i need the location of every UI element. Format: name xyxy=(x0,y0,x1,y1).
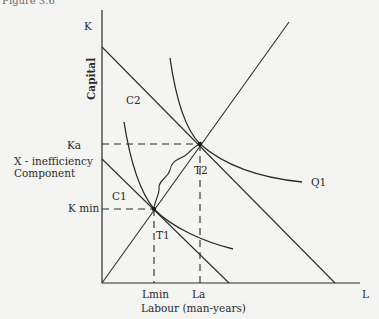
tick-label-lmin: Lmin xyxy=(142,288,169,300)
figure-caption: Figure 3.6 xyxy=(2,0,55,6)
isoquant-q1 xyxy=(170,58,302,182)
tick-label-ka: Ka xyxy=(67,139,81,151)
tick-label-kmin: K min xyxy=(68,202,99,214)
point-label-t2: T2 xyxy=(194,164,208,176)
isocost-line-c2 xyxy=(102,47,335,283)
tick-label-la: La xyxy=(192,288,205,300)
y-axis-top-label: K xyxy=(84,20,92,32)
x-axis-end-label: L xyxy=(362,288,369,300)
curve-label-q1: Q1 xyxy=(311,176,326,188)
curve-label-c2: C2 xyxy=(126,94,141,106)
y-axis-title: Capital xyxy=(85,58,97,100)
curve-label-c1: C1 xyxy=(112,190,127,202)
point-label-t1: T1 xyxy=(156,229,170,241)
point-t2 xyxy=(198,142,202,146)
x-inefficiency-label-line2: Component xyxy=(14,167,76,179)
x-axis-title: Labour (man-years) xyxy=(141,302,246,314)
x-inefficiency-isoquant-diagram: Figure 3.6 K Capital L Labour (man-years… xyxy=(0,0,379,319)
point-t1 xyxy=(152,207,156,211)
x-inefficiency-label-line1: X - inefficiency xyxy=(14,155,93,167)
x-inefficiency-bracket xyxy=(154,145,199,207)
